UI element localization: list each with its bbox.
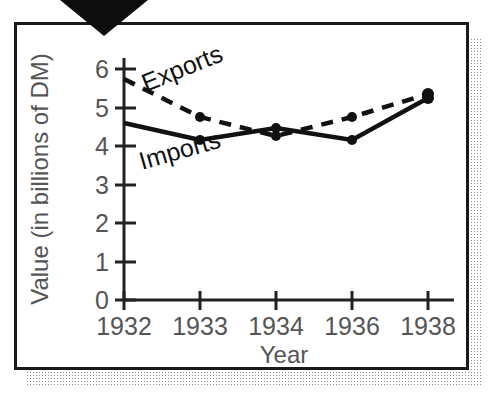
- y-tick-label-1: 1: [95, 248, 109, 276]
- figure-root: 0 1 2 3 4 5 6 1932 1933 1934 1936 1938 Y…: [0, 0, 495, 393]
- x-tick-label-1932: 1932: [96, 312, 152, 340]
- x-axis-title: Year: [260, 341, 309, 368]
- series-label-imports: Imports: [136, 125, 224, 175]
- y-tick-label-2: 2: [95, 209, 109, 237]
- y-tick-label-6: 6: [95, 55, 109, 83]
- series-label-exports: Exports: [137, 39, 226, 97]
- y-tick-label-3: 3: [95, 171, 109, 199]
- line-chart: 0 1 2 3 4 5 6 1932 1933 1934 1936 1938 Y…: [14, 22, 469, 370]
- y-tick-label-0: 0: [95, 286, 109, 314]
- y-tick-label-5: 5: [95, 94, 109, 122]
- y-axis-title: Value (in billions of DM): [26, 53, 53, 305]
- x-tick-label-1936: 1936: [324, 312, 380, 340]
- x-tick-label-1938: 1938: [400, 312, 456, 340]
- x-tick-label-1934: 1934: [248, 312, 304, 340]
- y-tick-label-4: 4: [95, 132, 109, 160]
- x-tick-label-1933: 1933: [172, 312, 228, 340]
